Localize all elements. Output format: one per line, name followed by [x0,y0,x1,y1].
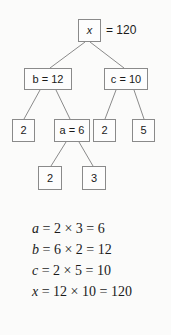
equation-list: a = 2 × 3 = 6 b = 6 × 2 = 12 c = 2 × 5 =… [0,218,171,302]
equation-x-variable: x [32,284,38,299]
node-leaf-2-right[interactable]: 2 [93,119,116,142]
equation-b-expression: = 6 × 2 = 12 [43,242,112,257]
node-leaf-5-label: 5 [140,125,146,136]
edge-a-to-3 [79,142,93,166]
node-a-label: a = 6 [60,125,85,136]
node-leaf-2-bottom[interactable]: 2 [38,166,62,190]
edge-x-to-b [50,42,85,68]
equation-c-expression: = 2 × 5 = 10 [42,263,111,278]
edge-c-to-5 [134,90,144,119]
equation-c: c = 2 × 5 = 10 [0,260,171,281]
node-leaf-2-left-label: 2 [20,125,26,136]
edge-c-to-2 [105,90,116,119]
node-c[interactable]: c = 10 [104,68,148,90]
equation-a: a = 2 × 3 = 6 [0,218,171,239]
equation-c-variable: c [32,263,38,278]
equation-x: x = 12 × 10 = 120 [0,281,171,302]
equation-x-expression: = 12 × 10 = 120 [42,284,132,299]
node-root-x[interactable]: x [78,19,101,42]
equation-a-expression: = 2 × 3 = 6 [43,221,105,236]
node-b[interactable]: b = 12 [24,68,72,90]
edge-x-to-c [90,42,124,68]
node-leaf-3-bottom[interactable]: 3 [82,166,106,190]
node-leaf-2-right-label: 2 [101,125,107,136]
node-leaf-2-left[interactable]: 2 [12,119,35,142]
node-a[interactable]: a = 6 [54,119,90,142]
edge-a-to-2 [51,142,66,166]
node-leaf-5[interactable]: 5 [132,119,155,142]
factor-tree-figure: x = 120 b = 12 c = 10 2 a = 6 2 5 2 3 a [0,0,171,335]
root-equals-value: = 120 [106,24,136,36]
node-c-label: c = 10 [111,74,141,85]
equation-a-variable: a [32,221,39,236]
factor-tree: x = 120 b = 12 c = 10 2 a = 6 2 5 2 3 [0,0,171,215]
node-leaf-2-bottom-label: 2 [47,173,53,184]
edge-b-to-a [56,90,70,119]
equation-b-variable: b [32,242,39,257]
edge-b-to-2 [24,90,40,119]
node-leaf-3-bottom-label: 3 [91,173,97,184]
node-root-label: x [87,25,93,36]
node-b-label: b = 12 [33,74,64,85]
equation-b: b = 6 × 2 = 12 [0,239,171,260]
